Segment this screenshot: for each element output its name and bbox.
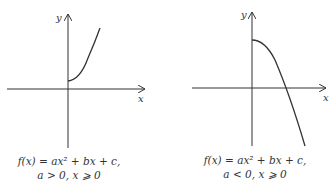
left-y-label: y bbox=[55, 12, 62, 23]
right-curve bbox=[252, 40, 305, 146]
left-curve bbox=[68, 28, 100, 81]
left-caption-line1: f(x) = ax² + bx + c, bbox=[10, 155, 128, 167]
left-x-label: x bbox=[138, 93, 144, 104]
right-caption-line2: a < 0, x ⩾ 0 bbox=[196, 168, 314, 180]
right-caption-line1: f(x) = ax² + bx + c, bbox=[196, 154, 314, 166]
right-y-label: y bbox=[240, 9, 247, 20]
right-x-label: x bbox=[323, 92, 329, 103]
left-graph: y x bbox=[7, 12, 145, 148]
left-caption-line2: a > 0, x ⩾ 0 bbox=[10, 169, 128, 181]
right-graph: y x bbox=[192, 9, 329, 146]
